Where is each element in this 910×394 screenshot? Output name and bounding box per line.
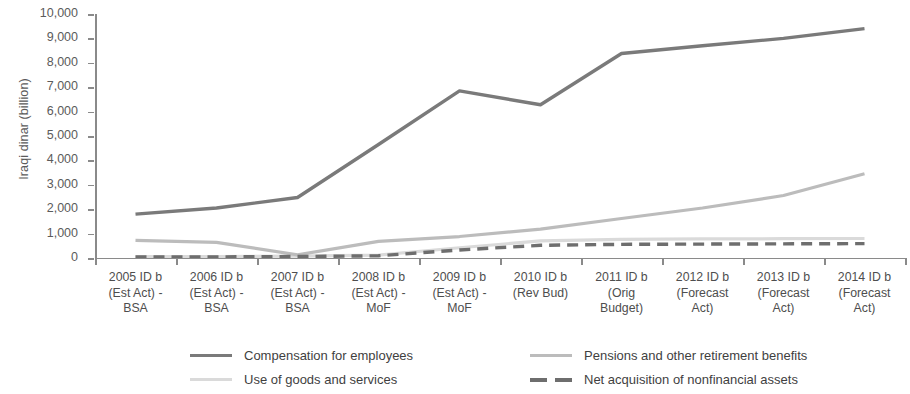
legend-label: Pensions and other retirement benefits bbox=[584, 348, 807, 363]
x-tick-mark bbox=[905, 258, 907, 265]
x-category-line: Act) bbox=[743, 301, 824, 317]
x-tick-mark bbox=[500, 258, 502, 265]
legend-item[interactable]: Compensation for employees bbox=[190, 348, 413, 363]
x-category-line: 2007 ID b bbox=[257, 270, 338, 286]
x-tick-mark bbox=[419, 258, 421, 265]
x-tick-mark bbox=[824, 258, 826, 265]
x-category-label: 2008 ID b(Est Act) -MoF bbox=[338, 270, 419, 317]
y-tick-label: 3,000 bbox=[0, 177, 78, 191]
legend-swatch-icon bbox=[190, 351, 232, 361]
x-category-line: 2014 ID b bbox=[824, 270, 905, 286]
x-category-line: BSA bbox=[257, 301, 338, 317]
y-tick-label: 6,000 bbox=[0, 104, 78, 118]
chart-legend: Compensation for employeesPensions and o… bbox=[0, 344, 910, 394]
legend-swatch-icon bbox=[190, 375, 232, 385]
x-category-line: 2013 ID b bbox=[743, 270, 824, 286]
x-category-line: 2011 ID b bbox=[581, 270, 662, 286]
x-category-label: 2012 ID b(ForecastAct) bbox=[662, 270, 743, 317]
y-tick-mark bbox=[88, 38, 94, 40]
legend-swatch-icon bbox=[530, 351, 572, 361]
x-category-label: 2014 ID b(ForecastAct) bbox=[824, 270, 905, 317]
x-category-line: 2010 ID b bbox=[500, 270, 581, 286]
y-tick-mark bbox=[88, 185, 94, 187]
y-tick-label: 8,000 bbox=[0, 55, 78, 69]
legend-label: Net acquisition of nonfinancial assets bbox=[584, 372, 798, 387]
y-tick-label: 4,000 bbox=[0, 152, 78, 166]
series-line bbox=[136, 29, 865, 214]
x-tick-mark bbox=[581, 258, 583, 265]
x-category-line: BSA bbox=[176, 301, 257, 317]
x-tick-mark bbox=[176, 258, 178, 265]
x-category-label: 2013 ID b(ForecastAct) bbox=[743, 270, 824, 317]
x-tick-mark bbox=[743, 258, 745, 265]
y-tick-mark bbox=[88, 234, 94, 236]
legend-label: Compensation for employees bbox=[244, 348, 413, 363]
y-tick-label: 10,000 bbox=[0, 6, 78, 20]
x-category-label: 2009 ID b(Est Act) -MoF bbox=[419, 270, 500, 317]
y-tick-label: 5,000 bbox=[0, 128, 78, 142]
x-category-line: BSA bbox=[95, 301, 176, 317]
legend-item[interactable]: Net acquisition of nonfinancial assets bbox=[530, 372, 798, 387]
x-category-label: 2011 ID b(OrigBudget) bbox=[581, 270, 662, 317]
y-tick-mark bbox=[88, 136, 94, 138]
x-tick-mark bbox=[95, 258, 97, 265]
x-tick-mark bbox=[257, 258, 259, 265]
x-tick-mark bbox=[338, 258, 340, 265]
y-tick-label: 9,000 bbox=[0, 30, 78, 44]
x-category-line: MoF bbox=[338, 301, 419, 317]
x-category-line: 2008 ID b bbox=[338, 270, 419, 286]
x-axis-labels: 2005 ID b(Est Act) -BSA2006 ID b(Est Act… bbox=[95, 270, 907, 328]
x-category-label: 2010 ID b(Rev Bud) bbox=[500, 270, 581, 301]
x-category-line: (Est Act) - bbox=[257, 286, 338, 302]
x-category-label: 2005 ID b(Est Act) -BSA bbox=[95, 270, 176, 317]
x-category-line: Act) bbox=[824, 301, 905, 317]
y-tick-mark bbox=[88, 14, 94, 16]
plot-area bbox=[95, 14, 905, 258]
x-category-line: MoF bbox=[419, 301, 500, 317]
y-tick-label: 1,000 bbox=[0, 226, 78, 240]
x-tick-mark bbox=[662, 258, 664, 265]
x-category-label: 2007 ID b(Est Act) -BSA bbox=[257, 270, 338, 317]
x-category-line: (Forecast bbox=[662, 286, 743, 302]
y-tick-label: 2,000 bbox=[0, 201, 78, 215]
y-tick-label: 0 bbox=[0, 250, 78, 264]
y-tick-mark bbox=[88, 63, 94, 65]
x-category-line: (Forecast bbox=[824, 286, 905, 302]
y-tick-mark bbox=[88, 112, 94, 114]
y-tick-label: 7,000 bbox=[0, 79, 78, 93]
x-category-line: (Rev Bud) bbox=[500, 286, 581, 302]
y-tick-mark bbox=[88, 258, 94, 260]
x-category-label: 2006 ID b(Est Act) -BSA bbox=[176, 270, 257, 317]
x-category-line: (Orig bbox=[581, 286, 662, 302]
line-chart-figure: Iraqi dinar (billion) 10,0009,0008,0007,… bbox=[0, 0, 910, 394]
x-category-line: (Est Act) - bbox=[176, 286, 257, 302]
x-category-line: (Est Act) - bbox=[338, 286, 419, 302]
x-category-line: Budget) bbox=[581, 301, 662, 317]
legend-item[interactable]: Use of goods and services bbox=[190, 372, 397, 387]
legend-swatch-icon bbox=[530, 375, 572, 385]
legend-label: Use of goods and services bbox=[244, 372, 397, 387]
y-tick-mark bbox=[88, 160, 94, 162]
x-category-line: Act) bbox=[662, 301, 743, 317]
x-category-line: (Forecast bbox=[743, 286, 824, 302]
x-category-line: 2009 ID b bbox=[419, 270, 500, 286]
x-category-line: 2006 ID b bbox=[176, 270, 257, 286]
x-category-line: 2005 ID b bbox=[95, 270, 176, 286]
y-tick-mark bbox=[88, 209, 94, 211]
y-tick-mark bbox=[88, 87, 94, 89]
x-category-line: (Est Act) - bbox=[95, 286, 176, 302]
x-category-line: 2012 ID b bbox=[662, 270, 743, 286]
x-category-line: (Est Act) - bbox=[419, 286, 500, 302]
legend-item[interactable]: Pensions and other retirement benefits bbox=[530, 348, 807, 363]
series-canvas bbox=[95, 14, 905, 258]
